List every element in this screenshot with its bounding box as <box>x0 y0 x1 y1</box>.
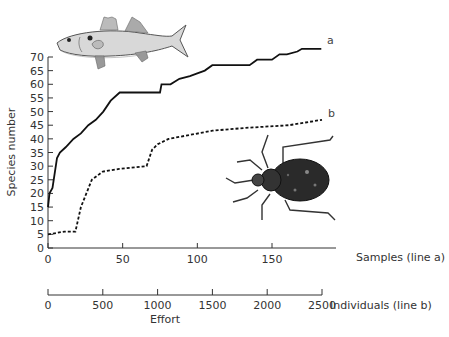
individuals-tick-label: 0 <box>45 299 52 312</box>
y-tick-label: 20 <box>30 187 44 200</box>
samples-tick-label: 150 <box>262 253 283 266</box>
y-axis-label: Species number <box>5 107 18 196</box>
species-accumulation-chart: 0510152025303540455055606570 050100150 S… <box>0 0 449 337</box>
individuals-tick-label: 1500 <box>198 299 226 312</box>
series-a-label: a <box>327 34 334 47</box>
y-tick-label: 5 <box>37 228 44 241</box>
x-axis-individuals: 05001000150020002500 Individuals (line b… <box>45 289 432 326</box>
y-tick-label: 65 <box>30 65 44 78</box>
x-axis-individuals-label: Individuals (line b) <box>330 299 432 312</box>
x-axis-samples-label: Samples (line a) <box>356 251 445 264</box>
y-tick-label: 10 <box>30 215 44 228</box>
y-tick-label: 40 <box>30 133 44 146</box>
samples-tick-label: 50 <box>116 253 130 266</box>
y-tick-label: 35 <box>30 147 44 160</box>
y-tick-label: 15 <box>30 201 44 214</box>
samples-tick-label: 0 <box>45 253 52 266</box>
effort-label: Effort <box>150 313 181 326</box>
individuals-tick-label: 1000 <box>144 299 172 312</box>
y-tick-label: 0 <box>37 242 44 255</box>
beetle-illustration <box>226 135 335 220</box>
x-axis-samples: 050100150 Samples (line a) <box>45 243 446 266</box>
individuals-tick-label: 2000 <box>253 299 281 312</box>
fish-illustration <box>57 17 188 69</box>
series-b-label: b <box>328 107 335 120</box>
y-axis: 0510152025303540455055606570 <box>30 51 53 255</box>
samples-tick-label: 100 <box>187 253 208 266</box>
individuals-tick-label: 500 <box>92 299 113 312</box>
y-tick-label: 45 <box>30 119 44 132</box>
y-tick-label: 50 <box>30 106 44 119</box>
y-tick-label: 70 <box>30 51 44 64</box>
y-tick-label: 25 <box>30 174 44 187</box>
y-tick-label: 30 <box>30 160 44 173</box>
y-tick-label: 60 <box>30 78 44 91</box>
y-tick-label: 55 <box>30 92 44 105</box>
